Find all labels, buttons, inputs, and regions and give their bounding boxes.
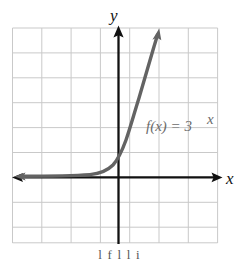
y-axis-label: y [108,6,118,25]
x-axis-label: x [225,169,234,188]
function-label-exponent: x [206,111,214,127]
graph-canvas: y x f(x) = 3 x [0,0,239,262]
exponential-graph-figure: y x f(x) = 3 x l f l l i [0,0,239,262]
bottom-caption: l f l l i [0,247,239,262]
function-label-text: f(x) = 3 [146,118,192,135]
